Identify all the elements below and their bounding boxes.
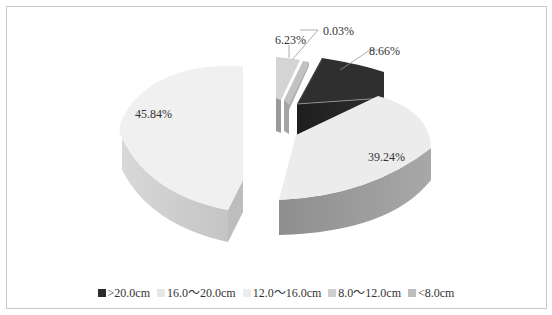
legend-item-12-16cm: 12.0～16.0cm [243,283,322,301]
legend-label: 12.0～16.0cm [253,286,322,300]
label-16-20cm: 39.24% [368,150,405,165]
legend-item-gt20cm: >20.0cm [98,286,150,301]
legend-label: <8.0cm [418,286,454,300]
label-8-12cm: 6.23% [275,33,306,48]
chart-legend: >20.0cm 16.0～20.0cm 12.0～16.0cm 8.0～12.0… [0,283,552,301]
legend-swatch-icon [328,289,336,297]
legend-swatch-icon [408,289,416,297]
legend-item-lt8cm: <8.0cm [408,286,454,301]
legend-swatch-icon [243,289,251,297]
legend-item-16-20cm: 16.0～20.0cm [157,283,236,301]
legend-label: 16.0～20.0cm [167,286,236,300]
legend-item-8-12cm: 8.0～12.0cm [328,283,401,301]
label-12-16cm: 45.84% [135,107,172,122]
legend-label: >20.0cm [108,286,150,300]
legend-swatch-icon [98,289,106,297]
label-lt8cm: 0.03% [323,24,354,39]
legend-swatch-icon [157,289,165,297]
legend-label: 8.0～12.0cm [338,286,401,300]
label-gt20cm: 8.66% [369,44,400,59]
